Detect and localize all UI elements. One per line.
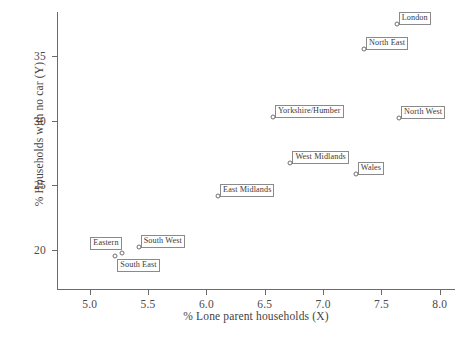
data-point [216,193,221,198]
y-tick [52,250,57,251]
x-tick-label: 6.0 [199,298,214,310]
x-axis-title: % Lone parent households (X) [57,310,455,322]
x-tick [206,290,207,295]
y-tick [52,121,57,122]
y-tick [52,56,57,57]
data-point [270,114,275,119]
data-point [396,116,401,121]
data-point [136,245,141,250]
point-label: Wales [358,162,384,175]
y-tick [52,185,57,186]
data-point [361,47,366,52]
y-axis-line [57,12,58,290]
point-label: Yorkshire/Humber [275,105,344,118]
data-point [113,254,118,259]
x-tick-label: 7.5 [374,298,389,310]
x-tick-label: 5.0 [82,298,97,310]
point-label: South West [141,235,185,248]
point-label: West Midlands [292,151,348,164]
x-tick [440,290,441,295]
data-point [120,250,125,255]
x-tick-label: 7.0 [316,298,331,310]
x-tick [381,290,382,295]
point-label: North West [401,106,445,119]
point-label: Eastern [90,237,121,250]
scatter-plot-figure: 5.05.56.06.57.07.58.0 20253035 LondonNor… [0,0,474,344]
data-point [353,171,358,176]
data-point [394,21,399,26]
x-tick-label: 8.0 [432,298,447,310]
x-tick [148,290,149,295]
point-label: London [399,12,431,25]
x-axis-line [57,289,455,290]
point-label: East Midlands [220,184,274,197]
point-label: South East [117,259,159,272]
x-tick-label: 5.5 [141,298,156,310]
plot-area: 5.05.56.06.57.07.58.0 20253035 LondonNor… [57,12,455,290]
x-tick [90,290,91,295]
x-tick [323,290,324,295]
point-label: North East [366,37,408,50]
x-tick [265,290,266,295]
y-axis-title: % Households with no car (Y) [33,19,45,249]
data-point [288,161,293,166]
x-tick-label: 6.5 [257,298,272,310]
